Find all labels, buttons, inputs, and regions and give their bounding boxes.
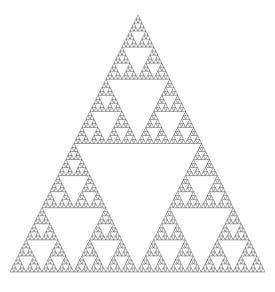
sierpinski-triangle-fractal: [0, 0, 275, 292]
figure-background: [0, 0, 275, 292]
figure-canvas: Sierpinski Triangle: [0, 0, 275, 292]
